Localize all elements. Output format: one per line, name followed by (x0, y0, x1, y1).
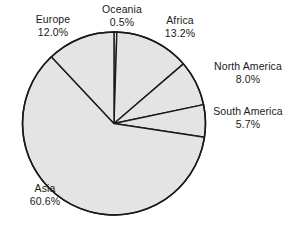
pie-label-asia-name: Asia (12, 182, 78, 195)
pie-label-south-america: South America 5.7% (198, 105, 298, 130)
pie-label-north-america-value: 8.0% (198, 73, 298, 86)
pie-label-north-america: North America 8.0% (198, 60, 298, 85)
pie-label-europe: Europe 12.0% (22, 13, 84, 38)
pie-label-oceania-name: Oceania (92, 3, 152, 16)
pie-label-europe-value: 12.0% (22, 26, 84, 39)
pie-label-oceania-value: 0.5% (92, 16, 152, 29)
pie-chart: Europe 12.0% Oceania 0.5% Africa 13.2% N… (0, 0, 300, 231)
pie-label-europe-name: Europe (22, 13, 84, 26)
pie-label-north-america-name: North America (198, 60, 298, 73)
pie-label-asia: Asia 60.6% (12, 182, 78, 207)
pie-label-africa-name: Africa (152, 14, 208, 27)
pie-label-oceania: Oceania 0.5% (92, 3, 152, 28)
pie-label-africa-value: 13.2% (152, 27, 208, 40)
pie-label-africa: Africa 13.2% (152, 14, 208, 39)
pie-label-south-america-name: South America (198, 105, 298, 118)
pie-label-asia-value: 60.6% (12, 195, 78, 208)
pie-label-south-america-value: 5.7% (198, 118, 298, 131)
